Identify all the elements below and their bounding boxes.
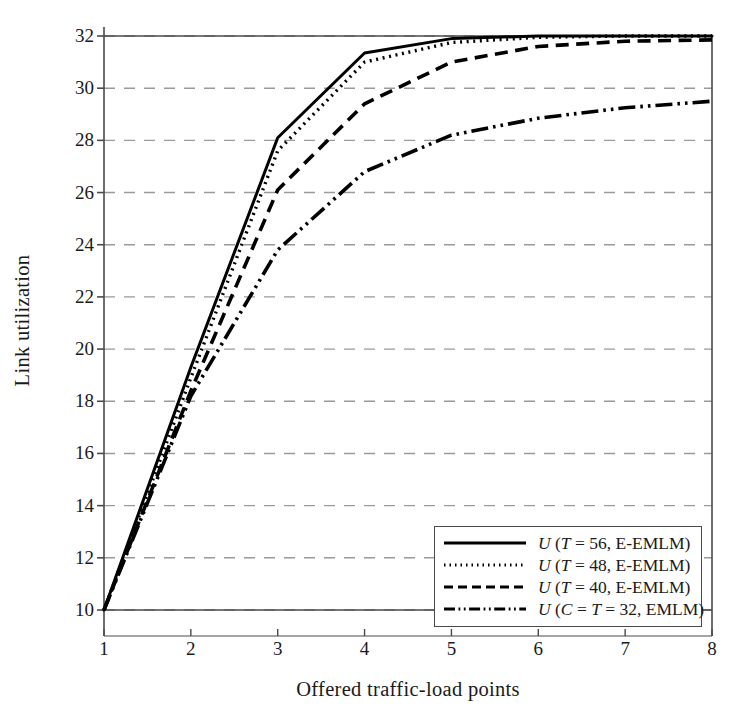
chart-figure: Link utilization 10121416182022242628303…	[0, 0, 747, 722]
x-tick-label: 6	[523, 638, 553, 660]
legend-swatch-dashed	[442, 579, 528, 595]
legend-label-3: U (C = T = 32, EMLM)	[528, 599, 704, 620]
legend-item: U (T = 48, E-EMLM)	[442, 554, 694, 576]
x-tick-label: 4	[350, 638, 380, 660]
x-tick-label: 1	[89, 638, 119, 660]
y-axis-ticks	[97, 36, 104, 610]
x-tick-label: 3	[263, 638, 293, 660]
legend-item: U (T = 40, E-EMLM)	[442, 576, 694, 598]
legend-label-2: U (T = 40, E-EMLM)	[528, 577, 690, 598]
data-series-group	[104, 36, 712, 610]
x-tick-label: 8	[697, 638, 727, 660]
legend-swatch-dotted	[442, 557, 528, 573]
legend-item: U (C = T = 32, EMLM)	[442, 598, 694, 620]
legend-label-1: U (T = 48, E-EMLM)	[528, 555, 690, 576]
x-axis-ticks	[104, 629, 712, 636]
x-axis-label: Offered traffic-load points	[104, 678, 712, 701]
chart-legend: U (T = 56, E-EMLM) U (T = 48, E-EMLM) U …	[434, 526, 702, 627]
x-tick-label: 2	[176, 638, 206, 660]
x-tick-label: 5	[436, 638, 466, 660]
legend-swatch-solid	[442, 535, 528, 551]
x-tick-label: 7	[610, 638, 640, 660]
data-line	[104, 36, 712, 610]
legend-label-0: U (T = 56, E-EMLM)	[528, 533, 690, 554]
data-line	[104, 36, 712, 610]
data-line	[104, 40, 712, 610]
grid-lines	[104, 36, 712, 610]
legend-swatch-dash-dot-dot	[442, 601, 528, 617]
legend-item: U (T = 56, E-EMLM)	[442, 532, 694, 554]
